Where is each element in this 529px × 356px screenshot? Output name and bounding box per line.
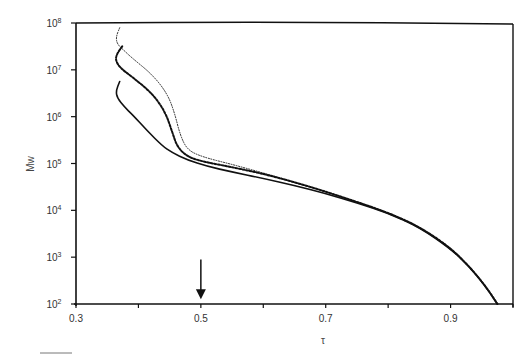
series-dashed-line [116, 46, 497, 304]
y-tick-label: 104 [46, 204, 61, 216]
annotation-layer [196, 260, 206, 300]
x-axis: 0.30.50.70.9 [69, 304, 513, 324]
y-tick-label: 105 [46, 158, 61, 170]
chart: 0.30.50.70.9 102103104105106107108 τ Mw [0, 0, 529, 356]
y-tick-label: 106 [46, 111, 61, 123]
y-axis-title: Mw [25, 155, 36, 171]
y-axis: 102103104105106107108 [46, 17, 76, 310]
x-tick-label: 0.7 [319, 313, 333, 324]
series-layer [116, 28, 497, 304]
x-tick-label: 0.3 [69, 313, 83, 324]
series-solid-line [116, 82, 497, 305]
y-tick-label: 108 [46, 17, 61, 29]
x-axis-title: τ [321, 335, 325, 346]
y-tick-label: 102 [46, 298, 61, 310]
y-tick-label: 103 [46, 251, 61, 263]
arrow-down-icon [196, 289, 206, 299]
series-dotted-line [116, 28, 497, 304]
top-border [76, 22, 513, 24]
x-tick-label: 0.9 [444, 313, 458, 324]
y-tick-label: 107 [46, 64, 61, 76]
x-tick-label: 0.5 [194, 313, 208, 324]
